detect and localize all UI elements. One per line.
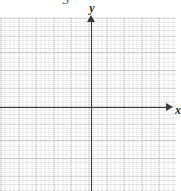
x-axis-label: x xyxy=(175,104,181,118)
graph-grid xyxy=(0,17,176,191)
y-axis-label: y xyxy=(85,2,99,16)
x-axis-arrow-icon xyxy=(166,103,173,111)
y-axis-arrow-icon xyxy=(87,15,95,22)
grid-dither-overlay xyxy=(0,17,176,191)
coordinate-plane-figure: 3 y x xyxy=(0,0,181,191)
top-clipped-number: 3 xyxy=(56,0,76,7)
x-axis-line xyxy=(0,107,168,108)
y-axis-line xyxy=(91,20,92,191)
